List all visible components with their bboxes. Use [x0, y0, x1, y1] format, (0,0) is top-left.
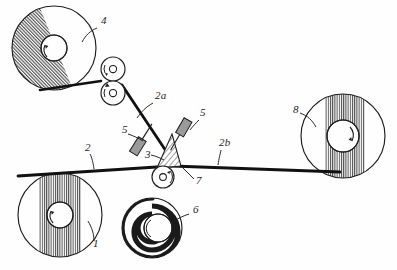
nip-lower-hub — [109, 89, 116, 96]
label-7: 7 — [196, 174, 202, 186]
label-6: 6 — [193, 203, 199, 215]
figure-canvas: 4 2a 5 5 3 2 2b 7 8 1 6 — [0, 0, 397, 270]
patent-figure: 4 2a 5 5 3 2 2b 7 8 1 6 — [0, 0, 397, 270]
nip-roller-7 — [152, 166, 174, 188]
label-8: 8 — [293, 103, 299, 115]
nip-roller-upper — [101, 57, 125, 81]
label-4: 4 — [101, 14, 107, 26]
nip-7-hub — [160, 174, 167, 181]
nip-upper-hub — [109, 65, 116, 72]
label-3: 3 — [144, 148, 151, 160]
label-5-right: 5 — [200, 106, 206, 118]
label-2a: 2a — [155, 89, 167, 101]
label-2b: 2b — [219, 136, 231, 148]
label-5-left: 5 — [122, 123, 128, 135]
label-2: 2 — [85, 141, 91, 153]
nip-roller-lower — [101, 81, 125, 105]
label-1: 1 — [93, 237, 99, 249]
